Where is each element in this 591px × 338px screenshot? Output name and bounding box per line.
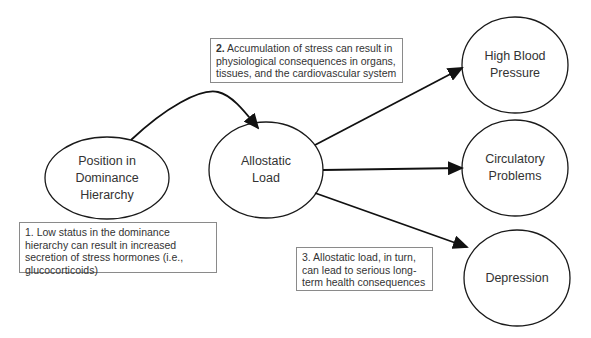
- node-allostatic-label: Allostatic Load: [216, 150, 316, 190]
- note-3-text: Allostatic load, in turn, can lead to se…: [302, 251, 425, 288]
- note-2-text: Accumulation of stress can result in phy…: [216, 42, 396, 79]
- node-circulatory-line-2: Problems: [489, 168, 542, 185]
- edge-allostatic-to-depression: [315, 193, 467, 247]
- node-depression-line-1: Depression: [485, 270, 548, 287]
- node-allostatic-line-1: Allostatic: [241, 153, 291, 170]
- node-position-label: Position in Dominance Hierarchy: [57, 150, 157, 206]
- node-position-line-2: Dominance: [75, 170, 138, 187]
- note-3-number: 3.: [302, 251, 311, 263]
- note-3-box: 3. Allostatic load, in turn, can lead to…: [296, 247, 433, 291]
- edge-position-to-allostatic: [131, 91, 258, 140]
- node-hbp-line-2: Pressure: [490, 65, 540, 82]
- note-1-number: 1.: [25, 226, 34, 238]
- node-hbp-label: High Blood Pressure: [465, 45, 565, 85]
- node-circulatory-label: Circulatory Problems: [465, 148, 565, 188]
- node-position-line-1: Position in: [78, 153, 136, 170]
- node-hbp-line-1: High Blood: [484, 48, 545, 65]
- note-1-text: Low status in the dominance hierarchy ca…: [25, 226, 183, 276]
- note-2-box: 2. Accumulation of stress can result in …: [210, 38, 403, 83]
- edge-allostatic-to-circulatory: [323, 168, 462, 170]
- note-1-box: 1. Low status in the dominance hierarchy…: [19, 222, 217, 273]
- node-allostatic-line-2: Load: [252, 170, 280, 187]
- node-position-line-3: Hierarchy: [80, 187, 134, 204]
- note-2-number: 2.: [216, 42, 225, 54]
- node-depression-label: Depression: [467, 268, 567, 288]
- node-circulatory-line-1: Circulatory: [485, 151, 545, 168]
